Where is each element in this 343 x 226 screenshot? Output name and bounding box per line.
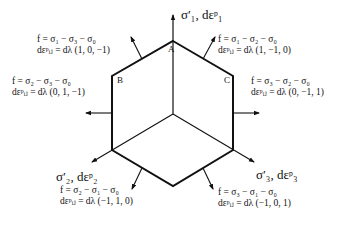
strain-increment: dεᵖᵢⱼ = dλ (1, −1, 0): [218, 45, 291, 56]
yield-function: f = σ₂ − σ₃ − σ₀: [12, 76, 85, 87]
normal-arrow-lower-left: [132, 168, 142, 189]
normal-arrow-upper-right: [203, 37, 215, 59]
yield-function: f = σ₁ − σ₂ − σ₀: [218, 34, 291, 45]
vertex-c-label: C: [224, 75, 230, 85]
strain-increment: dεᵖᵢⱼ = dλ (−1, 1, 0): [60, 196, 133, 207]
vertex-b-label: B: [117, 75, 123, 85]
sigma3-axis-label: σ′₃, dεᵖ₃: [256, 168, 297, 182]
yield-function: f = σ₃ − σ₁ − σ₀: [218, 187, 291, 198]
yield-function: f = σ₃ − σ₂ − σ₀: [251, 76, 324, 87]
yield-function: f = σ₁ − σ₃ − σ₀: [37, 34, 110, 45]
normal-arrow-upper-left: [131, 37, 142, 59]
sigma3-axis: [173, 114, 254, 162]
face-label-lower-right: f = σ₃ − σ₁ − σ₀ dεᵖᵢⱼ = dλ (−1, 0, 1): [218, 187, 291, 209]
sigma2-axis: [92, 114, 173, 162]
face-label-right: f = σ₃ − σ₂ − σ₀ dεᵖᵢⱼ = dλ (0, −1, 1): [251, 76, 324, 98]
face-label-upper-left: f = σ₁ − σ₃ − σ₀ dεᵖᵢⱼ = dλ (1, 0, −1): [37, 34, 110, 56]
face-label-left: f = σ₂ − σ₃ − σ₀ dεᵖᵢⱼ = dλ (0, 1, −1): [12, 76, 85, 98]
face-label-upper-right: f = σ₁ − σ₂ − σ₀ dεᵖᵢⱼ = dλ (1, −1, 0): [218, 34, 291, 56]
face-label-lower-left: f = σ₂ − σ₁ − σ₀ dεᵖᵢⱼ = dλ (−1, 1, 0): [60, 185, 133, 207]
sigma1-axis-label: σ′₁, dεᵖ₁: [181, 8, 222, 22]
strain-increment: dεᵖᵢⱼ = dλ (−1, 0, 1): [218, 198, 291, 209]
yield-function: f = σ₂ − σ₁ − σ₀: [60, 185, 133, 196]
strain-increment: dεᵖᵢⱼ = dλ (0, 1, −1): [12, 87, 85, 98]
vertex-a-label: A: [168, 44, 175, 54]
normal-arrow-lower-right: [203, 168, 213, 189]
strain-increment: dεᵖᵢⱼ = dλ (1, 0, −1): [37, 45, 110, 56]
strain-increment: dεᵖᵢⱼ = dλ (0, −1, 1): [251, 87, 324, 98]
sigma2-axis-label: σ′₂, dεᵖ₂: [56, 170, 97, 184]
